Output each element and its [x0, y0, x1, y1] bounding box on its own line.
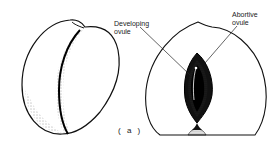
label-developing-ovule: Developing ovule — [114, 20, 149, 36]
sectioned-fruit — [146, 22, 267, 135]
label-abortive-line2: ovule — [232, 19, 258, 27]
label-developing-line1: Developing — [114, 20, 149, 28]
label-developing-line2: ovule — [114, 28, 149, 36]
label-abortive-line1: Abortive — [232, 11, 258, 19]
figure-caption: ( a ) — [118, 127, 142, 135]
label-abortive-ovule: Abortive ovule — [232, 11, 258, 27]
whole-fruit — [22, 20, 119, 134]
